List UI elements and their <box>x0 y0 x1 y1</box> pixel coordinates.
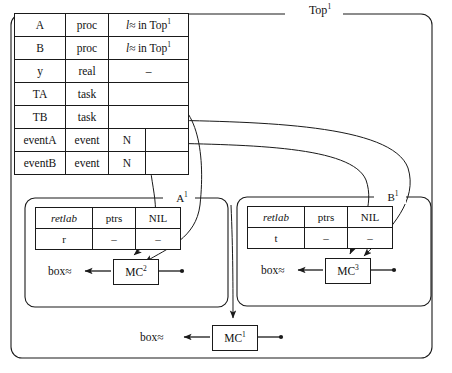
outer-box-label-text: Top <box>309 3 328 17</box>
cell-symbol-kind: task <box>66 106 109 129</box>
mc-box-3-sup: 3 <box>355 263 359 272</box>
inner-box-b-label-text: B <box>387 191 394 203</box>
table-row-header: retlab ptrs NIL <box>36 208 181 229</box>
mc-box-1: MC1 <box>212 325 258 351</box>
table-row: TAtask <box>15 83 189 106</box>
header-retlab: retlab <box>248 207 305 228</box>
mc-box-2-sup: 2 <box>143 264 147 273</box>
cell-symbol-value: l≈ in Top1 <box>109 37 189 60</box>
squiggle-icon: ≈ <box>129 19 135 31</box>
cell-symbol-kind: proc <box>66 14 109 37</box>
mc-box-3: MC3 <box>325 258 371 284</box>
cell-symbol-value: – <box>109 60 189 83</box>
inner-box-b-label: B1 <box>380 190 406 204</box>
inner-box-b-label-sup: 1 <box>395 189 399 198</box>
diagram-canvas: Top1 Aprocl≈ in Top1Bprocl≈ in Top1yreal… <box>0 0 452 373</box>
cell-symbol-kind: event <box>66 152 109 175</box>
inner-box-a-label: A1 <box>169 191 195 205</box>
table-row: Aprocl≈ in Top1 <box>15 14 189 37</box>
mc-box-2: MC2 <box>113 259 159 285</box>
squiggle-icon: ≈ <box>129 42 135 54</box>
header-nil: NIL <box>136 208 181 229</box>
symbol-table: Aprocl≈ in Top1Bprocl≈ in Top1yreal–TAta… <box>14 13 189 175</box>
table-row: t – – <box>248 228 393 249</box>
box-label-top-text: box <box>140 331 157 343</box>
cell-retlab-value: r <box>36 229 93 250</box>
header-nil: NIL <box>348 207 393 228</box>
squiggle-icon: ≈ <box>157 331 163 343</box>
cell-symbol-name: eventB <box>15 152 66 175</box>
header-retlab: retlab <box>36 208 93 229</box>
cell-retlab-value: t <box>248 228 305 249</box>
cell-symbol-name: TA <box>15 83 66 106</box>
cell-symbol-kind: event <box>66 129 109 152</box>
table-row: Bprocl≈ in Top1 <box>15 37 189 60</box>
inner-box-a-label-sup: 1 <box>184 190 188 199</box>
header-ptrs: ptrs <box>93 208 136 229</box>
table-row: r – – <box>36 229 181 250</box>
value-superscript: 1 <box>167 17 171 26</box>
mc-box-3-text: MC <box>337 265 355 277</box>
box-label-a: box≈ <box>48 264 71 278</box>
connector-to-mc1 <box>231 205 233 318</box>
table-row: TBtask <box>15 106 189 129</box>
mc-box-1-text: MC <box>224 332 242 344</box>
cell-ptrs-value: – <box>305 228 348 249</box>
outer-box-label: Top1 <box>297 2 343 18</box>
outer-box-label-sup: 1 <box>327 2 331 11</box>
mc-box-1-sup: 1 <box>242 330 246 339</box>
cell-ptrs-value: – <box>93 229 136 250</box>
cell-symbol-value <box>109 106 189 129</box>
cell-symbol-kind: task <box>66 83 109 106</box>
cell-symbol-name: A <box>15 14 66 37</box>
cell-symbol-name: B <box>15 37 66 60</box>
cell-symbol-kind: proc <box>66 37 109 60</box>
table-row: yreal– <box>15 60 189 83</box>
cell-symbol-extra <box>146 129 189 152</box>
box-label-b: box≈ <box>261 263 284 277</box>
cell-symbol-kind: real <box>66 60 109 83</box>
cell-symbol-extra <box>146 152 189 175</box>
cell-symbol-name: eventA <box>15 129 66 152</box>
box-label-top: box≈ <box>140 330 163 344</box>
cell-nil-value: – <box>136 229 181 250</box>
table-row: eventBeventN <box>15 152 189 175</box>
cell-nil-value: – <box>348 228 393 249</box>
cell-symbol-name: TB <box>15 106 66 129</box>
cell-symbol-name: y <box>15 60 66 83</box>
squiggle-icon: ≈ <box>278 264 284 276</box>
inner-box-a-label-text: A <box>176 192 184 204</box>
retlab-table-a: retlab ptrs NIL r – – <box>35 207 181 250</box>
retlab-table-b: retlab ptrs NIL t – – <box>247 206 393 249</box>
value-superscript: 1 <box>167 40 171 49</box>
header-ptrs: ptrs <box>305 207 348 228</box>
cell-symbol-value: l≈ in Top1 <box>109 14 189 37</box>
cell-symbol-value: N <box>109 129 146 152</box>
cell-symbol-value <box>109 83 189 106</box>
squiggle-icon: ≈ <box>65 265 71 277</box>
cell-symbol-value: N <box>109 152 146 175</box>
mc-box-2-text: MC <box>125 266 143 278</box>
box-label-a-text: box <box>48 265 65 277</box>
box-label-b-text: box <box>261 264 278 276</box>
table-row-header: retlab ptrs NIL <box>248 207 393 228</box>
table-row: eventAeventN <box>15 129 189 152</box>
